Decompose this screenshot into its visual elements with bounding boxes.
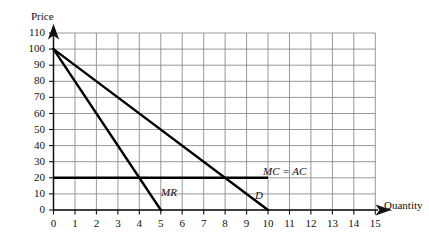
y-tick-label-50: 50 [21, 123, 45, 135]
x-tick-label-13: 13 [325, 217, 339, 229]
x-tick-label-7: 7 [197, 217, 211, 229]
x-tick-label-12: 12 [304, 217, 318, 229]
y-tick-label-100: 100 [21, 42, 45, 54]
x-tick-label-8: 8 [218, 217, 232, 229]
y-tick-label-90: 90 [21, 58, 45, 70]
y-tick-label-60: 60 [21, 107, 45, 119]
y-axis-title: Price [31, 10, 54, 22]
x-tick-label-5: 5 [154, 217, 168, 229]
y-tick-label-30: 30 [21, 155, 45, 167]
x-tick-label-2: 2 [89, 217, 103, 229]
x-tick-label-15: 15 [368, 217, 382, 229]
y-tick-label-70: 70 [21, 90, 45, 102]
x-tick-label-11: 11 [283, 217, 297, 229]
x-tick-label-4: 4 [132, 217, 146, 229]
x-axis-title: Quantity [384, 199, 423, 211]
x-tick-label-14: 14 [347, 217, 361, 229]
x-tick-label-10: 10 [261, 217, 275, 229]
y-tick-label-20: 20 [21, 171, 45, 183]
y-tick-label-80: 80 [21, 74, 45, 86]
demand-label: D [255, 189, 263, 201]
x-tick-label-1: 1 [68, 217, 82, 229]
x-tick-label-6: 6 [175, 217, 189, 229]
y-tick-label-110: 110 [21, 26, 45, 38]
x-tick-label-9: 9 [240, 217, 254, 229]
chart-canvas [0, 0, 429, 240]
mc-ac-label: MC = AC [263, 165, 306, 177]
y-tick-label-10: 10 [21, 187, 45, 199]
marginal-revenue-label: MR [161, 186, 177, 198]
y-tick-label-40: 40 [21, 139, 45, 151]
x-tick-label-0: 0 [47, 217, 61, 229]
x-tick-label-3: 3 [111, 217, 125, 229]
y-tick-label-0: 0 [21, 203, 45, 215]
monopoly-price-quantity-chart: Price Quantity 110 100 90 80 70 60 50 40… [0, 0, 429, 240]
